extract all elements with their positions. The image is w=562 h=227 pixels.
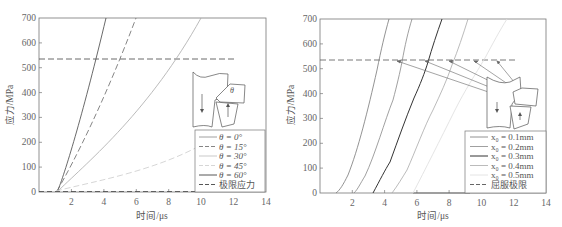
series-theta-0 bbox=[58, 18, 201, 191]
left-y-axis-label: 应力/MPa bbox=[4, 84, 15, 125]
right-xtick-2: 2 bbox=[350, 198, 355, 208]
right-xtick-4: 4 bbox=[382, 198, 387, 208]
left-ytick-0: 0 bbox=[31, 187, 36, 197]
right-ytick-700: 700 bbox=[303, 14, 318, 24]
left-x-axis-label: 时间/μs bbox=[136, 210, 168, 221]
right-xtick-14: 14 bbox=[541, 198, 551, 208]
series-theta-45 bbox=[56, 140, 210, 191]
series-theta-15 bbox=[57, 18, 136, 191]
left-ytick-100: 100 bbox=[22, 162, 37, 172]
right-ytick-100: 100 bbox=[303, 163, 318, 173]
left-chart: 0 100 200 300 400 500 600 700 2 4 6 8 10… bbox=[4, 13, 271, 221]
legend-x0-0.4: x₀ = 0.4mm bbox=[491, 161, 533, 171]
right-ytick-500: 500 bbox=[303, 64, 318, 74]
legend-x0-0.1: x₀ = 0.1mm bbox=[491, 132, 533, 142]
legend-limit-stress: 极限应力 bbox=[219, 179, 255, 190]
left-xtick-8: 8 bbox=[166, 197, 171, 207]
left-xtick-4: 4 bbox=[102, 197, 107, 207]
left-xtick-6: 6 bbox=[134, 197, 139, 207]
left-ytick-300: 300 bbox=[22, 112, 37, 122]
figure: 0 100 200 300 400 500 600 700 2 4 6 8 10… bbox=[0, 0, 562, 227]
left-ytick-400: 400 bbox=[22, 88, 37, 98]
left-xtick-10: 10 bbox=[196, 197, 206, 207]
right-y-axis-label: 应力/MPa bbox=[285, 84, 296, 125]
right-x-axis-label: 时间/μs bbox=[417, 210, 449, 221]
legend-theta-60: θ = 60° bbox=[219, 170, 247, 180]
right-xtick-8: 8 bbox=[447, 198, 452, 208]
right-chart: 0 100 200 300 400 500 600 700 2 4 6 8 10… bbox=[285, 14, 551, 221]
series-x0-0.1 bbox=[336, 19, 389, 193]
right-ytick-0: 0 bbox=[312, 188, 317, 198]
series-x0-0.3 bbox=[373, 19, 442, 193]
right-xtick-10: 10 bbox=[477, 198, 487, 208]
legend-theta-45: θ = 45° bbox=[219, 161, 247, 171]
left-xtick-12: 12 bbox=[229, 197, 239, 207]
left-ytick-200: 200 bbox=[22, 137, 37, 147]
left-xtick-14: 14 bbox=[261, 197, 271, 207]
left-xtick-2: 2 bbox=[69, 197, 74, 207]
legend-x0-0.2: x₀ = 0.2mm bbox=[491, 142, 533, 152]
right-ytick-600: 600 bbox=[303, 39, 318, 49]
right-xtick-6: 6 bbox=[415, 198, 420, 208]
legend-theta-0: θ = 0° bbox=[219, 132, 242, 142]
series-theta-60 bbox=[58, 18, 106, 190]
right-y-axis bbox=[320, 44, 323, 168]
legend-x0-0.5: x₀ = 0.5mm bbox=[491, 170, 533, 180]
theta-label: θ bbox=[230, 86, 234, 95]
right-legend: x₀ = 0.1mm x₀ = 0.2mm x₀ = 0.3mm x₀ = 0.… bbox=[465, 131, 546, 193]
right-ytick-200: 200 bbox=[303, 138, 318, 148]
legend-theta-30: θ = 30° bbox=[219, 151, 247, 161]
legend-theta-15: θ = 15° bbox=[219, 142, 247, 152]
legend-yield-limit: 屈服极限 bbox=[491, 179, 527, 190]
right-ytick-300: 300 bbox=[303, 113, 318, 123]
left-ytick-700: 700 bbox=[22, 13, 37, 23]
series-x0-0.2 bbox=[354, 19, 412, 193]
right-xtick-12: 12 bbox=[509, 198, 519, 208]
left-legend: θ = 0° θ = 15° θ = 30° θ = 45° θ = 60° 极… bbox=[195, 130, 265, 192]
left-ytick-600: 600 bbox=[22, 38, 37, 48]
legend-x0-0.3: x₀ = 0.3mm bbox=[491, 151, 533, 161]
left-crack-inset: θ bbox=[193, 72, 245, 127]
right-crack-inset bbox=[487, 77, 538, 129]
left-y-axis bbox=[39, 43, 42, 167]
left-ytick-500: 500 bbox=[22, 63, 37, 73]
right-ytick-400: 400 bbox=[303, 89, 318, 99]
